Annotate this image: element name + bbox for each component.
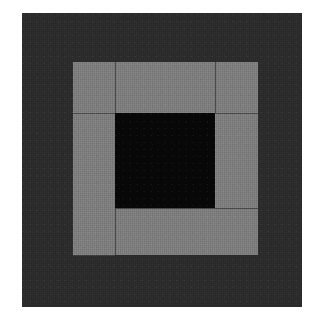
seam-top-right-vertical bbox=[215, 62, 216, 113]
center-square-patch bbox=[115, 113, 215, 208]
log-strip-top-patch bbox=[73, 62, 258, 113]
log-strip-bottom-patch bbox=[115, 208, 258, 255]
seam-left-bottom-horizontal bbox=[73, 255, 115, 256]
seam-bottom-horizontal bbox=[115, 208, 258, 209]
seam-right-horizontal bbox=[215, 113, 258, 114]
log-strip-left-patch bbox=[73, 113, 115, 255]
quilt-block-image bbox=[0, 0, 319, 326]
log-strip-right-patch bbox=[215, 113, 258, 208]
seam-bottom-left-vertical bbox=[115, 208, 116, 255]
seam-top-left-vertical bbox=[115, 62, 116, 113]
seam-left-horizontal bbox=[73, 113, 115, 114]
